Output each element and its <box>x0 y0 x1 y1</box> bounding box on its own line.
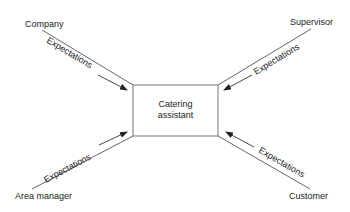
area-manager-arrow-icon <box>99 132 127 145</box>
company-node-label: Company <box>25 19 64 29</box>
customer-arrow-icon <box>226 132 254 147</box>
area-manager-edge-label: Expectations <box>42 152 93 185</box>
supervisor-arrow-icon <box>224 75 252 90</box>
supervisor-edge-label: Expectations <box>252 41 302 76</box>
company-arrow-icon <box>98 75 127 90</box>
customer-connector <box>218 136 310 189</box>
supervisor-connector <box>218 29 311 85</box>
expectations-diagram: Catering assistant Expectations Expectat… <box>0 0 350 212</box>
center-label-line2: assistant <box>158 110 194 120</box>
supervisor-node-label: Supervisor <box>290 17 333 27</box>
customer-node-label: Customer <box>289 191 328 201</box>
center-label-line1: Catering <box>158 99 192 109</box>
area-manager-node-label: Area manager <box>15 191 72 201</box>
company-edge-label: Expectations <box>45 35 95 70</box>
